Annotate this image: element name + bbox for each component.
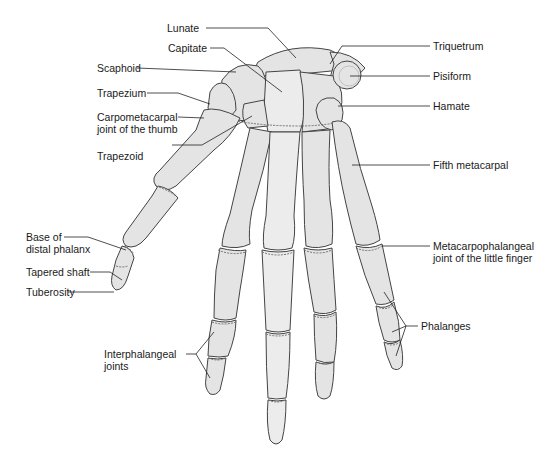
label-trapezoid: Trapezoid — [97, 150, 143, 162]
label-fifth-metacarpal: Fifth metacarpal — [433, 159, 508, 171]
label-capitate: Capitate — [168, 42, 207, 54]
label-cmc-thumb-line2: joint of the thumb — [97, 123, 178, 135]
little-finger-bones — [332, 121, 403, 370]
thumb-proximal-phalanx — [123, 186, 178, 247]
label-interphalangeal-line1: Interphalangeal — [104, 348, 176, 360]
label-cmc-thumb-line1: Carpometacarpal — [97, 111, 178, 123]
label-mcp-line2: joint of the little finger — [433, 252, 532, 264]
fourth-metacarpal — [302, 130, 333, 248]
thumb-distal-phalanx — [112, 246, 135, 290]
label-trapezium: Trapezium — [97, 87, 146, 99]
middle-distal-phalanx — [267, 400, 286, 444]
middle-middle-phalanx — [266, 332, 290, 399]
ring-finger-bones — [302, 130, 337, 399]
index-middle-phalanx — [208, 320, 236, 357]
label-lunate: Lunate — [167, 22, 199, 34]
label-tapered-shaft: Tapered shaft — [26, 266, 90, 278]
ring-proximal-phalanx — [304, 248, 336, 314]
capitate-bone — [264, 70, 305, 132]
label-base-distal-line2: distal phalanx — [26, 243, 90, 255]
little-proximal-phalanx — [356, 244, 394, 305]
label-hamate: Hamate — [433, 100, 470, 112]
index-finger-bones — [206, 128, 273, 395]
label-mcp-line1: Metacarpophalangeal — [433, 240, 534, 252]
index-proximal-phalanx — [214, 248, 246, 320]
fifth-metacarpal — [332, 121, 380, 245]
middle-proximal-phalanx — [262, 250, 294, 332]
pisiform-bone — [333, 61, 361, 89]
ring-middle-phalanx — [314, 312, 337, 363]
label-base-distal-line1: Base of — [26, 231, 62, 243]
middle-finger-bones — [262, 132, 300, 444]
label-tuberosity: Tuberosity — [26, 286, 75, 298]
label-phalanges: Phalanges — [421, 320, 471, 332]
label-scaphoid: Scaphoid — [97, 62, 141, 74]
label-pisiform: Pisiform — [433, 70, 471, 82]
label-interphalangeal-line2: joints — [104, 360, 129, 372]
ring-distal-phalanx — [315, 362, 334, 399]
third-metacarpal — [263, 132, 300, 250]
label-triquetrum: Triquetrum — [433, 40, 483, 52]
